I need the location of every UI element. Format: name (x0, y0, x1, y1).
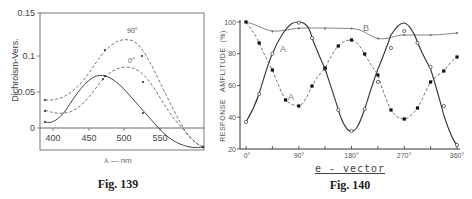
fig139-plot-frame (40, 13, 204, 150)
fig139-x-axis-label: λ — nm (104, 156, 132, 165)
fig139-xtick-500: 500 (116, 133, 131, 143)
fig140-label-A-lower: A (288, 92, 294, 102)
fig140-xtick-90: 90° (294, 152, 305, 159)
fig140-ytick-20: 20 (228, 146, 236, 153)
fig139-y-axis-label: Dichroism-Vers. (10, 38, 20, 102)
fig139-caption: Fig. 139 (98, 177, 139, 191)
fig139-ytick-0: 0 (30, 123, 35, 133)
fig140-ytick-40: 40 (228, 114, 236, 121)
fig140-xtick-180: 180° (344, 152, 359, 159)
fig140-markers-A-filled (244, 20, 458, 120)
fig139-xtick-450: 450 (81, 133, 96, 143)
fig139-x-axis: 400 450 500 550 λ — nm (45, 128, 167, 165)
fig139-y-axis: 0.15 0.1 0.05 0 Dichroism-Vers. (10, 8, 40, 133)
fig139-ytick-0.15: 0.15 (17, 8, 35, 18)
fig139-label-0deg: 0° (128, 57, 135, 64)
fig140-label-B: B (363, 23, 369, 33)
fig140-ytick-100: 100 (224, 19, 236, 26)
figure-canvas: 0.15 0.1 0.05 0 Dichroism-Vers. 400 450 … (0, 0, 472, 199)
fig139-chart: 0.15 0.1 0.05 0 Dichroism-Vers. 400 450 … (10, 8, 204, 191)
fig139-label-90deg: 90° (127, 27, 138, 34)
fig140-label-A-upper: A (280, 44, 286, 54)
fig140-x-axis: 0° 90° 180° 270° 360° e - vector (244, 146, 465, 174)
fig139-xtick-400: 400 (45, 133, 60, 143)
fig140-xtick-360: 360° (450, 152, 465, 159)
fig140-ytick-60: 60 (228, 82, 236, 89)
fig140-curve-A-dashed (246, 22, 457, 119)
fig140-x-axis-label: e - vector (315, 163, 385, 174)
fig139-ytick-0.1: 0.1 (22, 51, 35, 61)
fig140-caption: Fig. 140 (330, 178, 371, 192)
fig140-y-axis: 100 80 60 40 20 RESPONSE AMPLITUDE (%) (219, 19, 240, 153)
fig140-y-axis-label: RESPONSE AMPLITUDE (%) (219, 30, 227, 142)
fig140-curve-B (246, 22, 457, 39)
fig140-xtick-270: 270° (397, 152, 412, 159)
fig139-ytick-0.05: 0.05 (17, 87, 35, 97)
fig140-ytick-80: 80 (228, 50, 236, 57)
fig140-xtick-0: 0° (244, 152, 251, 159)
fig140-chart: 100 80 60 40 20 RESPONSE AMPLITUDE (%) 0… (219, 19, 464, 193)
